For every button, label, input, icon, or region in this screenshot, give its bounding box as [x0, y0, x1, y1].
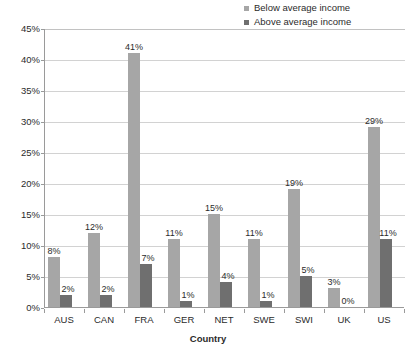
- y-axis-tick-label: 20%: [6, 179, 40, 189]
- bar-group: 11%1%: [165, 28, 205, 307]
- y-axis-tick-label: 15%: [6, 210, 40, 220]
- x-axis-category-label: AUS: [44, 314, 84, 325]
- bar-above-average-income: [260, 301, 272, 307]
- x-axis-tick-mark: [364, 309, 365, 313]
- bar-above-average-income: [300, 276, 312, 307]
- y-axis-tick-label: 10%: [6, 241, 40, 251]
- bar-value-label: 15%: [201, 203, 227, 213]
- bar-group: 11%1%: [245, 28, 285, 307]
- bar-value-label: 3%: [321, 277, 347, 287]
- bar-above-average-income: [180, 301, 192, 307]
- bar-value-label: 2%: [95, 284, 121, 294]
- bar-above-average-income: [60, 295, 72, 307]
- x-axis-tick-mark: [164, 309, 165, 313]
- x-axis-category-label: CAN: [84, 314, 124, 325]
- y-axis-tick-label: 40%: [6, 55, 40, 65]
- plot-area: 8%2%12%2%41%7%11%1%15%4%11%1%19%5%3%0%29…: [44, 29, 404, 308]
- bar-value-label: 8%: [41, 246, 67, 256]
- bar-below-average-income: [368, 127, 380, 307]
- x-axis-tick-mark: [124, 309, 125, 313]
- bar-value-label: 29%: [361, 116, 387, 126]
- bar-group: 29%11%: [365, 28, 405, 307]
- bar-value-label: 1%: [255, 290, 281, 300]
- x-axis-category-label: SWE: [244, 314, 284, 325]
- bar-value-label: 5%: [295, 265, 321, 275]
- bar-below-average-income: [88, 233, 100, 307]
- x-axis-tick-mark: [44, 309, 45, 313]
- x-axis-title: Country: [0, 333, 416, 344]
- bar-group: 3%0%: [325, 28, 365, 307]
- bar-value-label: 7%: [135, 253, 161, 263]
- x-axis-tick-mark: [84, 309, 85, 313]
- x-axis-tick-mark: [404, 309, 405, 313]
- y-axis-tick-label: 45%: [6, 24, 40, 34]
- bar-above-average-income: [380, 239, 392, 307]
- bar-value-label: 11%: [375, 228, 401, 238]
- x-axis-tick-mark: [324, 309, 325, 313]
- x-axis-category-label: FRA: [124, 314, 164, 325]
- bar-group: 12%2%: [85, 28, 125, 307]
- bar-group: 15%4%: [205, 28, 245, 307]
- y-axis-tick-label: 0%: [6, 303, 40, 313]
- x-axis-category-label: US: [364, 314, 404, 325]
- bar-chart: Below average income Above average incom…: [0, 0, 416, 351]
- bar-group: 41%7%: [125, 28, 165, 307]
- x-axis-tick-mark: [284, 309, 285, 313]
- x-axis-category-label: GER: [164, 314, 204, 325]
- bar-value-label: 1%: [175, 290, 201, 300]
- bar-value-label: 2%: [55, 284, 81, 294]
- bar-above-average-income: [220, 282, 232, 307]
- y-axis-tick-label: 35%: [6, 86, 40, 96]
- y-axis-tick-label: 30%: [6, 117, 40, 127]
- bar-above-average-income: [140, 264, 152, 307]
- bar-group: 19%5%: [285, 28, 325, 307]
- x-axis-category-label: NET: [204, 314, 244, 325]
- bar-value-label: 0%: [335, 296, 361, 306]
- x-axis-category-label: UK: [324, 314, 364, 325]
- bar-below-average-income: [208, 214, 220, 307]
- bar-value-label: 19%: [281, 178, 307, 188]
- bar-value-label: 11%: [161, 228, 187, 238]
- bar-value-label: 12%: [81, 222, 107, 232]
- bar-above-average-income: [100, 295, 112, 307]
- y-axis-tick-label: 5%: [6, 272, 40, 282]
- x-axis-category-label: SWI: [284, 314, 324, 325]
- bar-value-label: 11%: [241, 228, 267, 238]
- bar-value-label: 41%: [121, 42, 147, 52]
- bar-value-label: 4%: [215, 271, 241, 281]
- bar-below-average-income: [48, 257, 60, 307]
- y-axis-tick-label: 25%: [6, 148, 40, 158]
- bar-below-average-income: [288, 189, 300, 307]
- bar-group: 8%2%: [45, 28, 85, 307]
- bar-below-average-income: [128, 53, 140, 307]
- x-axis-tick-mark: [244, 309, 245, 313]
- x-axis-tick-mark: [204, 309, 205, 313]
